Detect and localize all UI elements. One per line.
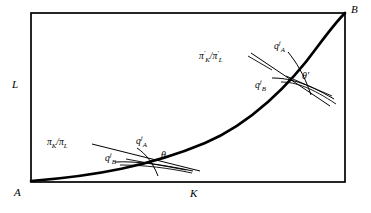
q-sub: A <box>143 141 147 148</box>
pi-sub-L: L <box>64 142 68 149</box>
q-sup: j <box>279 39 281 46</box>
price-ratio-label-lower: πK/πL <box>47 138 68 150</box>
edgeworth-box <box>31 13 345 182</box>
leader-line-price-ratio-upper <box>248 56 272 70</box>
q-sup: j <box>110 151 112 158</box>
isoquant-label-qA-upper: qjA <box>274 40 285 54</box>
q-sup: j <box>141 134 143 141</box>
isoquant-label-qB-lower: qjB <box>105 152 116 166</box>
diagram-canvas <box>0 0 371 213</box>
isoquant-label-qA-lower: qjA <box>136 135 147 149</box>
tangency-point-label-theta: θ <box>161 150 166 160</box>
axis-label-L: L <box>12 79 18 90</box>
axis-label-K: K <box>190 188 197 199</box>
q-sub: A <box>281 46 285 53</box>
price-ratio-label-upper: π′K/π′L <box>199 50 223 64</box>
isoquant-label-qB-upper: qjB <box>255 79 266 93</box>
pi-prime-2: ′ <box>217 49 219 56</box>
efficiency-locus-curve <box>31 13 345 181</box>
q-sub: B <box>112 158 116 165</box>
pi-prime: ′ <box>204 49 206 56</box>
pi-sub-L: L <box>219 56 223 63</box>
q-sup: j <box>260 78 262 85</box>
corner-label-B: B <box>351 4 358 15</box>
corner-label-A: A <box>14 187 21 198</box>
q-sub: B <box>262 85 266 92</box>
tangency-point-label-theta-prime: θ′ <box>302 71 309 81</box>
